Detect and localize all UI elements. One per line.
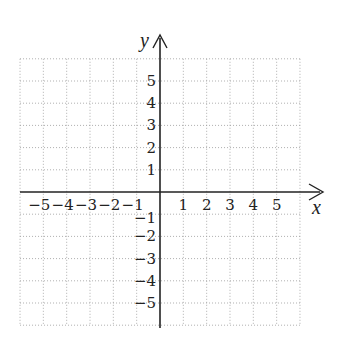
y-tick-label: −5 xyxy=(134,294,156,312)
y-tick-label: −3 xyxy=(134,250,156,268)
y-tick-label: −4 xyxy=(134,272,156,290)
y-tick-label: 3 xyxy=(146,116,156,134)
x-tick-label: 2 xyxy=(202,196,212,214)
y-tick-label: 1 xyxy=(146,161,156,179)
coordinate-plane: x y −5−4−3−2−112345 54321−1−2−3−4−5 xyxy=(0,0,355,349)
x-tick-label: −3 xyxy=(75,196,97,214)
x-tick-label: −4 xyxy=(52,196,74,214)
axes xyxy=(20,35,323,328)
y-axis-label: y xyxy=(138,29,149,52)
x-tick-label: 1 xyxy=(179,196,189,214)
y-tick-label: −1 xyxy=(134,209,156,227)
x-axis-label: x xyxy=(311,196,321,218)
x-tick-label: 4 xyxy=(249,196,259,214)
x-tick-label: −2 xyxy=(98,196,120,214)
y-tick-label: −2 xyxy=(134,227,156,245)
y-tick-label: 2 xyxy=(146,139,156,157)
y-tick-label: 4 xyxy=(146,94,156,112)
x-tick-label: −5 xyxy=(28,196,50,214)
y-tick-label: 5 xyxy=(146,72,156,90)
x-tick-label: 5 xyxy=(272,196,282,214)
x-tick-label: 3 xyxy=(225,196,235,214)
